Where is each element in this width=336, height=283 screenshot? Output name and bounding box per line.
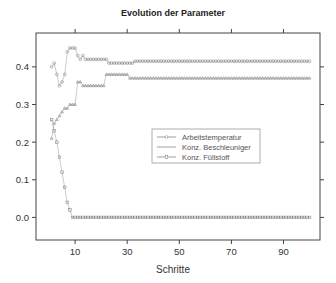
data-point <box>264 77 267 80</box>
data-point <box>220 77 223 80</box>
data-point <box>272 77 275 80</box>
data-point <box>160 77 163 80</box>
data-point <box>194 77 197 80</box>
data-point <box>170 77 173 80</box>
data-point <box>253 77 256 80</box>
data-point <box>92 84 95 87</box>
data-point <box>222 77 225 80</box>
x-tick-label: 50 <box>174 246 185 257</box>
data-point <box>201 77 204 80</box>
data-point <box>266 77 269 80</box>
y-tick-label: 0.4 <box>16 61 29 72</box>
legend-marker <box>165 156 168 159</box>
data-point <box>165 77 168 80</box>
data-point <box>259 77 262 80</box>
series-0 <box>50 47 311 87</box>
data-point <box>186 77 189 80</box>
y-tick-label: 0.1 <box>16 174 29 185</box>
data-point <box>95 84 98 87</box>
legend-marker <box>165 136 168 139</box>
data-point <box>238 77 241 80</box>
data-point <box>300 77 303 80</box>
data-point <box>84 84 87 87</box>
data-point <box>214 77 217 80</box>
data-point <box>147 77 150 80</box>
data-point <box>141 77 144 80</box>
data-point <box>212 77 215 80</box>
legend-label: Konz. Füllstoff <box>182 153 230 162</box>
y-tick-label: 0.2 <box>16 137 29 148</box>
data-point <box>131 77 134 80</box>
data-point <box>181 77 184 80</box>
data-point <box>303 77 306 80</box>
data-point <box>207 77 210 80</box>
data-point <box>173 77 176 80</box>
data-point <box>199 77 202 80</box>
data-point <box>87 84 90 87</box>
data-point <box>134 77 137 80</box>
data-point <box>183 77 186 80</box>
data-point <box>269 77 272 80</box>
data-point <box>196 77 199 80</box>
data-point <box>209 77 212 80</box>
data-point <box>89 84 92 87</box>
data-point <box>63 107 66 110</box>
data-point <box>293 77 296 80</box>
data-point <box>306 77 309 80</box>
data-point <box>240 77 243 80</box>
data-point <box>154 77 157 80</box>
data-point <box>277 77 280 80</box>
legend-label: Arbeitstemperatur <box>182 133 242 142</box>
data-point <box>139 77 142 80</box>
data-point <box>246 77 249 80</box>
x-tick-label: 10 <box>70 246 81 257</box>
data-point <box>100 84 103 87</box>
data-point <box>248 77 251 80</box>
data-point <box>243 77 246 80</box>
data-point <box>191 77 194 80</box>
legend-label: Konz. Beschleuniger <box>182 143 251 152</box>
data-point <box>274 77 277 80</box>
data-point <box>280 77 283 80</box>
data-point <box>225 77 228 80</box>
series-line <box>52 48 310 86</box>
data-point <box>152 77 155 80</box>
data-point <box>235 77 238 80</box>
data-point <box>178 77 181 80</box>
data-point <box>295 77 298 80</box>
data-point <box>175 77 178 80</box>
data-point <box>136 77 139 80</box>
x-tick-label: 30 <box>122 246 133 257</box>
data-point <box>227 77 230 80</box>
data-point <box>97 84 100 87</box>
data-point <box>285 77 288 80</box>
data-point <box>233 77 236 80</box>
data-point <box>282 77 285 80</box>
chart: Evolution der Parameter 0.00.10.20.30.4 … <box>0 0 336 283</box>
data-point <box>261 77 264 80</box>
y-tick-label: 0.3 <box>16 99 29 110</box>
legend: ArbeitstemperaturKonz. BeschleunigerKonz… <box>152 129 260 163</box>
data-point <box>298 77 301 80</box>
data-point <box>162 77 165 80</box>
data-point <box>230 77 233 80</box>
data-point <box>290 77 293 80</box>
x-tick-label: 70 <box>226 246 237 257</box>
y-tick-label: 0.0 <box>16 212 29 223</box>
chart-title: Evolution der Parameter <box>121 8 226 18</box>
data-point <box>251 77 254 80</box>
data-point <box>149 77 152 80</box>
x-tick-label: 90 <box>278 246 289 257</box>
data-point <box>256 77 259 80</box>
data-point <box>188 77 191 80</box>
data-point <box>167 77 170 80</box>
data-point <box>144 77 147 80</box>
data-point <box>217 77 220 80</box>
data-point <box>157 77 160 80</box>
data-point <box>287 77 290 80</box>
x-axis-label: Schritte <box>156 264 190 275</box>
data-point <box>308 77 311 80</box>
data-point <box>204 77 207 80</box>
